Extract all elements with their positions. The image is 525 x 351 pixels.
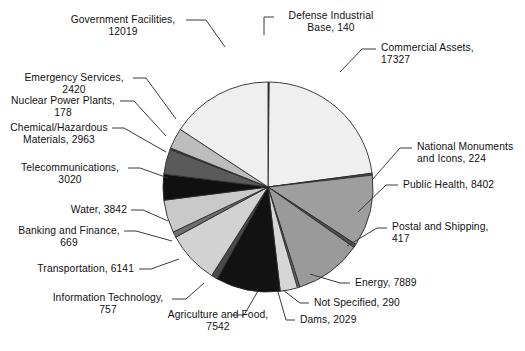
label-nuclear-power-plants: Nuclear Power Plants, 178 [4, 95, 122, 119]
label-public-health: Public Health, 8402 [403, 179, 525, 191]
label-information-technology: Information Technology, 757 [37, 292, 179, 316]
label-telecommunications: Telecommunications, 3020 [12, 162, 128, 186]
label-transportation: Transportation, 6141 [24, 263, 134, 275]
leader-transportation [139, 259, 179, 269]
leader-water [131, 210, 168, 221]
leader-government-facilities [186, 20, 225, 47]
label-dams: Dams, 2029 [300, 314, 400, 326]
label-emergency-services: Emergency Services, 2420 [13, 72, 135, 96]
pie-slices [163, 82, 373, 292]
leader-chemical-hazardous [112, 128, 166, 152]
label-commercial-assets: Commercial Assets, 17327 [381, 42, 523, 66]
leader-national-monuments [372, 148, 412, 180]
label-banking-and-finance: Banking and Finance, 669 [10, 225, 128, 249]
label-energy: Energy, 7889 [355, 277, 465, 289]
leader-nuclear-power-plants [120, 101, 166, 136]
label-postal-and-shipping: Postal and Shipping, 417 [392, 221, 522, 245]
pie-slice-commercial-assets[interactable] [268, 82, 372, 187]
label-chemical-hazardous: Chemical/Hazardous Materials, 2963 [4, 122, 114, 146]
pie-chart-figure: Government Facilities, 12019 Defense Ind… [0, 0, 525, 351]
leader-commercial-assets [340, 49, 376, 72]
leader-emergency-services [133, 78, 176, 119]
label-defense-industrial-base: Defense Industrial Base, 140 [276, 10, 386, 34]
label-water: Water, 3842 [41, 204, 127, 216]
leader-banking-and-finance [124, 231, 172, 241]
leader-telecommunications [128, 168, 168, 178]
leader-not-specified [283, 290, 309, 303]
leader-defense-industrial-base [264, 17, 274, 35]
label-national-monuments: National Monuments and Icons, 224 [417, 141, 525, 165]
label-not-specified: Not Specified, 290 [314, 297, 434, 309]
label-government-facilities: Government Facilities, 12019 [58, 14, 188, 38]
